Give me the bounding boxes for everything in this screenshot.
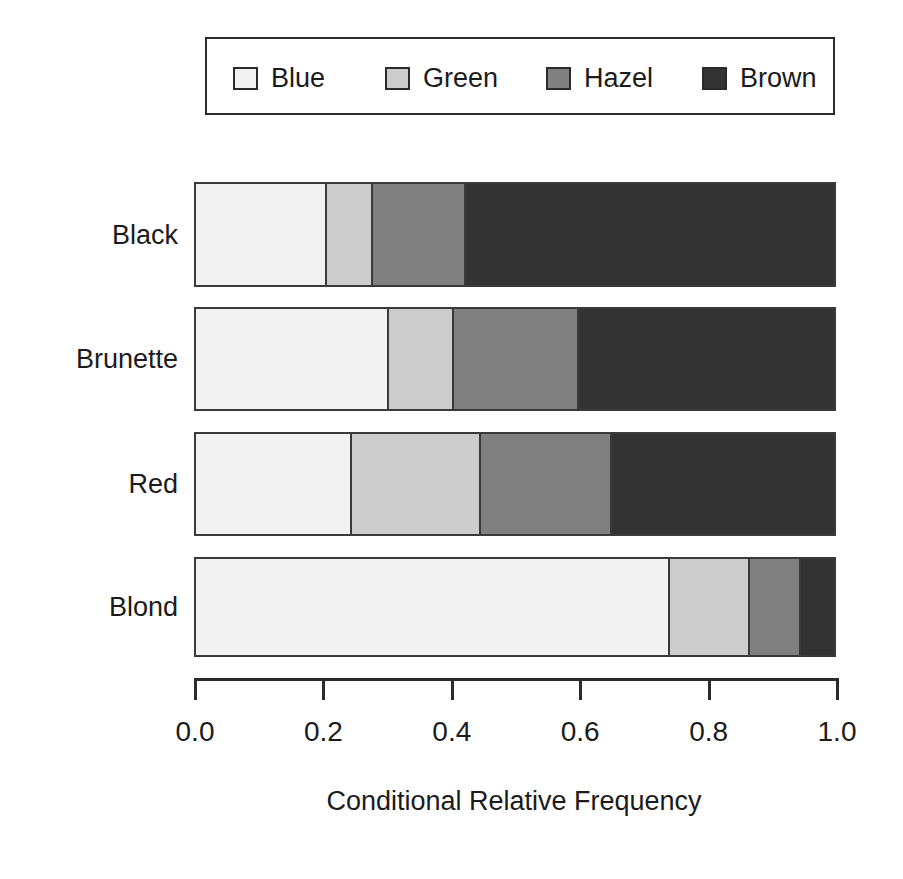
bar-segment-black-brown — [466, 184, 834, 285]
bar-segment-black-blue — [196, 184, 327, 285]
row-label-blond: Blond — [109, 592, 178, 623]
bar-segment-brunette-blue — [196, 309, 389, 409]
x-axis-tick — [451, 678, 454, 700]
bar-segment-blond-blue — [196, 559, 670, 655]
bar-segment-blond-brown — [801, 559, 834, 655]
x-axis-tick-label: 0.2 — [304, 716, 343, 748]
stacked-bar-brunette — [194, 307, 836, 411]
x-axis-tick — [708, 678, 711, 700]
x-axis-tick-label: 0.4 — [432, 716, 471, 748]
bar-segment-brunette-brown — [579, 309, 834, 409]
plot-area: BlackBrunetteRedBlond0.00.20.40.60.81.0C… — [0, 0, 903, 879]
bar-segment-blond-hazel — [750, 559, 800, 655]
stacked-bar-blond — [194, 557, 836, 657]
x-axis-line — [194, 678, 839, 681]
x-axis-title: Conditional Relative Frequency — [326, 786, 701, 817]
x-axis-tick — [322, 678, 325, 700]
chart-canvas: BlueGreenHazelBrown BlackBrunetteRedBlon… — [0, 0, 903, 879]
row-label-red: Red — [128, 469, 178, 500]
bar-segment-red-green — [352, 434, 480, 534]
row-label-brunette: Brunette — [76, 344, 178, 375]
x-axis-tick — [836, 678, 839, 700]
bar-segment-red-blue — [196, 434, 352, 534]
stacked-bar-black — [194, 182, 836, 287]
bar-segment-red-hazel — [481, 434, 612, 534]
row-label-black: Black — [112, 219, 178, 250]
bar-segment-red-brown — [612, 434, 834, 534]
x-axis-tick — [579, 678, 582, 700]
bar-segment-black-green — [327, 184, 374, 285]
bar-segment-blond-green — [670, 559, 750, 655]
x-axis-tick-label: 0.8 — [689, 716, 728, 748]
stacked-bar-red — [194, 432, 836, 536]
x-axis-tick — [194, 678, 197, 700]
x-axis-tick-label: 0.6 — [561, 716, 600, 748]
bar-segment-brunette-hazel — [454, 309, 579, 409]
bar-segment-brunette-green — [389, 309, 455, 409]
bar-segment-black-hazel — [373, 184, 466, 285]
x-axis-tick-label: 0.0 — [176, 716, 215, 748]
x-axis-tick-label: 1.0 — [818, 716, 857, 748]
